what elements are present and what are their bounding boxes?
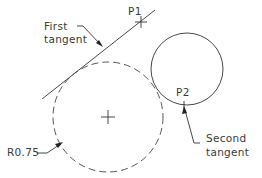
p2-label: P2 [176, 86, 190, 98]
radius-label: R0.75 [7, 146, 39, 158]
radius-leader [37, 145, 59, 153]
second-tangent-label-line2: tangent [206, 146, 249, 158]
first-tangent-callout: First tangent [44, 20, 103, 47]
center-mark [101, 110, 115, 124]
second-tangent-callout: Second tangent [182, 106, 249, 158]
second-tangent-arrowhead [182, 106, 187, 114]
second-tangent-leader [185, 110, 200, 143]
radius-callout: R0.75 [7, 142, 63, 158]
first-tangent-label-line1: First [44, 20, 68, 32]
tangent-circle-diagram: P1 P2 First tangent R0.75 Second tangent [0, 0, 262, 178]
p1-label: P1 [128, 5, 142, 17]
first-tangent-label-line2: tangent [44, 33, 87, 45]
second-tangent-label-line1: Second [206, 132, 246, 144]
